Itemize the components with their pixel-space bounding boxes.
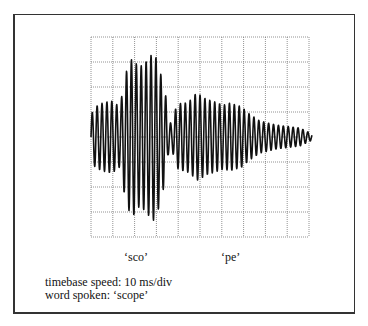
syllable-label-sco: ‘sco’ [124,251,148,264]
speech-waveform [91,55,312,220]
syllable-label-pe: ‘pe’ [221,251,240,264]
oscilloscope-grid [91,37,309,237]
caption-timebase: timebase speed: 10 ms/div [45,276,172,289]
caption-word-spoken: word spoken: ‘scope’ [45,289,148,302]
